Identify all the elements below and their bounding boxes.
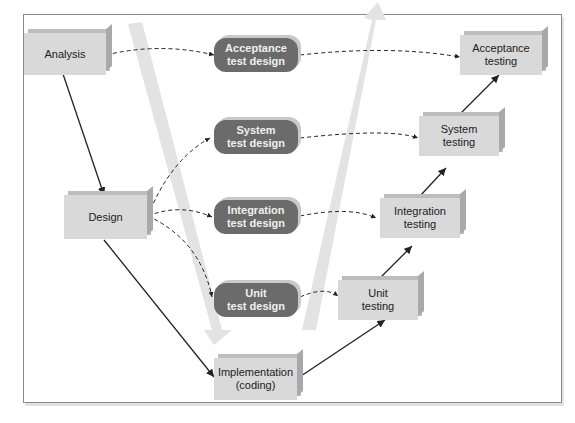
- system-test-design-sublabel: test design: [227, 137, 285, 150]
- integration-testing-label: Integration: [394, 205, 446, 218]
- unit-test-design-label: Unit: [245, 287, 266, 300]
- unit-testing-label: Unit: [368, 287, 388, 300]
- implementation-label: Implementation: [218, 366, 293, 379]
- acceptance-testing-sublabel: testing: [485, 55, 517, 68]
- implementation-box: Implementation (coding): [214, 358, 297, 400]
- integration-test-design-label: Integration: [228, 204, 285, 217]
- integration-testing-sublabel: testing: [404, 218, 436, 231]
- acceptance-test-design-sublabel: test design: [227, 55, 285, 68]
- acceptance-test-design-box: Acceptance test design: [214, 38, 298, 72]
- analysis-label: Analysis: [45, 48, 86, 61]
- unit-test-design-sublabel: test design: [227, 300, 285, 313]
- unit-testing-sublabel: testing: [362, 300, 394, 313]
- acceptance-testing-label: Acceptance: [472, 42, 529, 55]
- system-test-design-label: System: [236, 124, 275, 137]
- system-testing-sublabel: testing: [443, 136, 475, 149]
- implementation-sublabel: (coding): [236, 379, 276, 392]
- unit-test-design-box: Unit test design: [214, 283, 298, 317]
- acceptance-testing-box: Acceptance testing: [460, 35, 542, 75]
- integration-testing-box: Integration testing: [380, 198, 460, 238]
- system-testing-label: System: [441, 123, 478, 136]
- analysis-box: Analysis: [24, 33, 106, 75]
- integration-test-design-sublabel: test design: [227, 217, 285, 230]
- design-label: Design: [88, 211, 122, 224]
- unit-testing-box: Unit testing: [338, 280, 418, 320]
- acceptance-test-design-label: Acceptance: [225, 42, 287, 55]
- integration-test-design-box: Integration test design: [214, 200, 298, 234]
- design-box: Design: [64, 195, 147, 239]
- system-test-design-box: System test design: [214, 120, 298, 154]
- system-testing-box: System testing: [419, 116, 499, 156]
